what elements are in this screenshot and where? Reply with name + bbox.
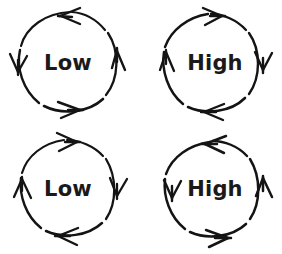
figure-background (0, 0, 282, 254)
cycle-label-high-2: High (187, 177, 243, 201)
cycle-label-low-1: Low (44, 51, 92, 75)
cycle-diagram-figure: Low (0, 0, 282, 254)
cycle-label-low-2: Low (44, 177, 92, 201)
cycle-label-high-1: High (187, 51, 243, 75)
